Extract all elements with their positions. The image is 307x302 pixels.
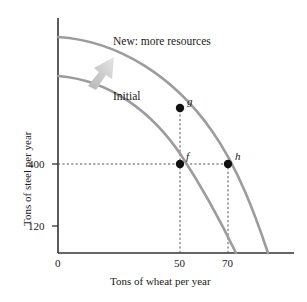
point-label-h: h: [235, 151, 241, 162]
point-label-f: f: [186, 151, 189, 162]
x-axis-title: Tons of wheat per year: [110, 276, 211, 287]
curve-label-new-more-resources: New: more resources: [113, 36, 211, 48]
axes: [58, 18, 294, 253]
curve-new-more-resources: [58, 37, 268, 253]
point-marker-h: [224, 160, 232, 168]
y-tick-label-400: 400: [28, 159, 45, 170]
x-tick-label-70: 70: [222, 258, 233, 269]
point-label-g: g: [187, 96, 193, 107]
point-marker-f: [176, 160, 184, 168]
y-axis-title: Tons of steel per year: [22, 131, 33, 226]
production-possibilities-frontier-chart: Tons of steel per year Tons of wheat per…: [0, 0, 307, 302]
y-axis-ticks: [52, 164, 58, 226]
point-marker-g: [176, 104, 184, 112]
x-tick-label-50: 50: [174, 258, 185, 269]
curve-label-initial: Initial: [113, 91, 140, 103]
dashed-guides: [58, 108, 228, 253]
x-tick-label-0: 0: [55, 258, 61, 269]
y-tick-label-120: 120: [28, 221, 45, 232]
